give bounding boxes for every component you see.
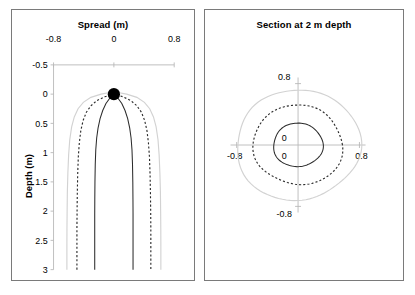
right-panel: Section at 2 m depth 0.8-0.8-0.80.800 <box>204 9 404 281</box>
y-axis-title: Depth (m) <box>23 154 34 198</box>
spread-depth-plot: -0.800.8-0.500.511.522.53Depth (m) <box>12 10 194 280</box>
source-point-marker <box>108 88 120 100</box>
x-tick-label: 0.8 <box>168 34 180 44</box>
left-panel: Spread (m) -0.800.8-0.500.511.522.53Dept… <box>11 9 195 281</box>
y-tick-label: 3 <box>43 265 48 275</box>
inner-plume-solid <box>95 94 133 270</box>
origin-x-label: 0 <box>282 151 287 161</box>
y-tick-label: -0.5 <box>32 60 47 70</box>
y-tick-label: 2.5 <box>35 236 47 246</box>
x-tick-label: 0 <box>111 34 116 44</box>
y-tick-label: 1.5 <box>35 177 47 187</box>
section-contour-plot: 0.8-0.8-0.80.800 <box>205 10 403 280</box>
x-tick-label: -0.8 <box>46 34 61 44</box>
mid-plume-dashed <box>77 94 151 270</box>
y-tick-label: 0.5 <box>35 119 47 129</box>
figure-container: Spread (m) -0.800.8-0.500.511.522.53Dept… <box>0 0 415 295</box>
y-tick-label: 1 <box>43 148 48 158</box>
top-tick-label: 0.8 <box>278 72 290 82</box>
outer-plume-gray <box>67 92 161 270</box>
y-tick-label: 0 <box>43 89 48 99</box>
origin-y-label: 0 <box>282 133 287 143</box>
bottom-tick-label: -0.8 <box>277 209 292 219</box>
y-tick-label: 2 <box>43 206 48 216</box>
left-tick-label: -0.8 <box>227 151 242 161</box>
